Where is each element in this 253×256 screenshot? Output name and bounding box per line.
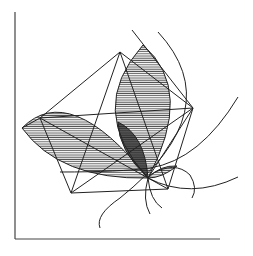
geometry-diagram [0, 0, 253, 256]
arc-bottom [148, 178, 162, 208]
diagram-figure [0, 0, 253, 256]
arc-lower-right [145, 177, 238, 214]
